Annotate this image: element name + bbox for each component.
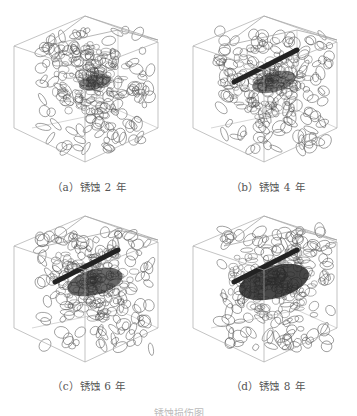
3d-cube-render-b <box>179 0 357 170</box>
3d-cube-render-c <box>0 200 178 370</box>
panel-c: （c）锈蚀 6 年 <box>0 200 178 400</box>
panel-a: （a）锈蚀 2 年 <box>0 0 178 200</box>
panel-d: （d）锈蚀 8 年 <box>179 200 357 400</box>
3d-cube-render-a <box>0 0 178 170</box>
panel-caption-a: （a）锈蚀 2 年 <box>0 179 178 194</box>
panel-caption-b: （b）锈蚀 4 年 <box>179 179 357 194</box>
3d-cube-render-d <box>179 200 357 370</box>
panel-b: （b）锈蚀 4 年 <box>179 0 357 200</box>
panel-caption-d: （d）锈蚀 8 年 <box>179 378 357 393</box>
figure-caption: 锈蚀损伤图 <box>0 407 357 416</box>
panel-caption-c: （c）锈蚀 6 年 <box>0 378 178 393</box>
